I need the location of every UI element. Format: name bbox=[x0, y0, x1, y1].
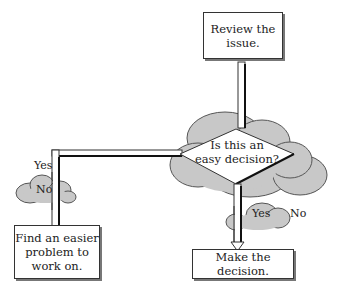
flowchart-canvas: Review the issue. Is this an easy decisi… bbox=[0, 0, 337, 293]
down-edge-no-label: No bbox=[290, 208, 306, 220]
left-edge-no-label: No bbox=[36, 184, 52, 196]
yes-outcome-node: Make the decision. bbox=[192, 249, 294, 279]
no-outcome-node: Find an easier problem to work on. bbox=[14, 225, 100, 279]
yes-outcome-label: Make the decision. bbox=[193, 250, 293, 278]
no-outcome-line3: work on. bbox=[32, 259, 83, 273]
left-edge-yes-label: Yes bbox=[34, 160, 52, 172]
start-line1: Review the bbox=[211, 22, 276, 36]
down-edge-yes-label: Yes bbox=[252, 208, 270, 220]
decision-label: Is this an easy decision? bbox=[192, 138, 282, 166]
decision-line1: Is this an bbox=[192, 138, 282, 152]
decision-line2: easy decision? bbox=[192, 152, 282, 166]
connector-top bbox=[238, 62, 245, 128]
no-outcome-line2: problem to bbox=[25, 245, 89, 259]
no-outcome-line1: Find an easier bbox=[15, 231, 99, 245]
start-node: Review the issue. bbox=[203, 12, 283, 59]
start-line2: issue. bbox=[226, 36, 259, 50]
